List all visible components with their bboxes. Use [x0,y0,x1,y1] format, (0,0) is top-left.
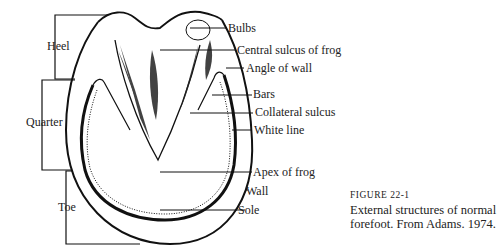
bulbs [98,12,222,29]
label-bars: Bars [253,88,275,100]
caption-line-1: External structures of normal [350,203,496,217]
bars [93,79,130,130]
label-toe: Toe [58,201,76,213]
label-white-line: White line [254,124,304,136]
label-quarter: Quarter [26,116,63,128]
label-apex-of-frog: Apex of frog [253,166,315,178]
label-angle-of-wall: Angle of wall [246,62,312,74]
label-heel: Heel [47,40,70,52]
figure-caption: FIGURE 22-1 External structures of norma… [350,188,496,231]
label-wall: Wall [246,185,268,197]
label-bulbs: Bulbs [228,22,256,34]
figure-number: FIGURE 22-1 [350,188,496,202]
label-collateral-sulcus: Collateral sulcus [255,106,335,118]
caption-line-2: forefoot. From Adams. 1974. [350,217,496,231]
label-central-sulcus: Central sulcus of frog [237,44,341,56]
label-sole: Sole [238,204,259,216]
white-line-ring [82,75,236,220]
